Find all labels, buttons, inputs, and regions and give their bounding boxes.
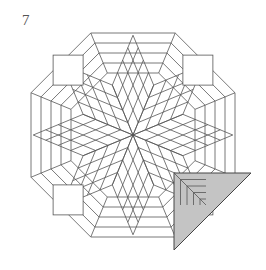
lone-star-quilt-diagram <box>0 0 266 270</box>
corner-square <box>53 185 83 215</box>
corner-square <box>183 55 213 85</box>
star-center-dot <box>132 134 134 136</box>
corner-square <box>53 55 83 85</box>
